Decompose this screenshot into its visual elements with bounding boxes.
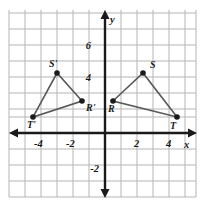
label-r: R (107, 103, 115, 114)
point-t (174, 114, 180, 120)
ytick-label-4: 4 (85, 72, 91, 83)
xtick-label-neg2: -2 (66, 138, 75, 149)
xtick-label-4: 4 (165, 138, 171, 149)
ytick-label-6: 6 (86, 40, 92, 51)
y-axis-label: y (108, 14, 115, 25)
graph-canvas: S' R' T' S R T -4 -2 2 4 6 4 -2 x y (0, 0, 206, 212)
label-s-prime: S' (49, 58, 58, 69)
xtick-label-2: 2 (133, 138, 140, 149)
coordinate-plane-figure: S' R' T' S R T -4 -2 2 4 6 4 -2 x y (0, 0, 206, 212)
figure-background (0, 0, 206, 212)
label-s: S (150, 59, 156, 70)
point-s (140, 70, 146, 76)
label-t: T (170, 120, 177, 131)
point-r-prime (79, 98, 85, 104)
point-s-prime (54, 70, 60, 76)
label-t-prime: T' (27, 119, 36, 130)
ytick-label-neg2: -2 (90, 163, 99, 174)
label-r-prime: R' (85, 102, 96, 113)
xtick-label-neg4: -4 (34, 138, 43, 149)
x-axis-label: x (183, 139, 189, 150)
